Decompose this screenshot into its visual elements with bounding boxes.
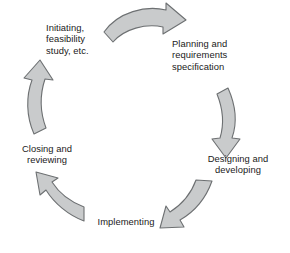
stage-label-implementing: Implementing [78, 216, 174, 227]
stage-label-planning: Planning and requirements specification [172, 38, 280, 72]
stage-label-designing: Designing and developing [188, 153, 288, 176]
curved-arrow-bottom-left [36, 172, 84, 221]
curved-arrow-right [212, 88, 240, 158]
cycle-diagram: Initiating, feasibility study, etc. Plan… [0, 0, 290, 253]
stage-label-closing: Closing and reviewing [6, 143, 88, 166]
stage-label-initiating: Initiating, feasibility study, etc. [46, 22, 122, 56]
curved-arrow-left [24, 60, 53, 134]
